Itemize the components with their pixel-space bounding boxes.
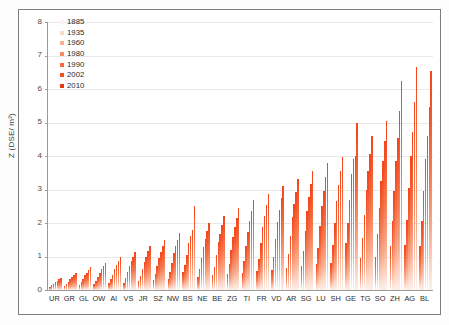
bar-cluster xyxy=(330,22,343,290)
chart-legend: 1885193519601980199020022010 xyxy=(60,17,124,91)
bar-cluster xyxy=(212,22,225,290)
x-axis-tick-label: GL xyxy=(77,294,92,304)
legend-swatch-icon xyxy=(60,63,64,67)
x-axis-tick-label: AR xyxy=(284,294,299,304)
bar xyxy=(208,223,209,290)
bar-cluster xyxy=(404,22,417,290)
legend-swatch-icon xyxy=(60,20,64,24)
y-axis-tick-label: 2 xyxy=(20,219,42,227)
bar xyxy=(164,240,165,290)
x-axis-tick-label: NW xyxy=(165,294,180,304)
x-axis-tick-label: SG xyxy=(299,294,314,304)
bar xyxy=(194,206,195,290)
x-axis-tick-label: NE xyxy=(195,294,210,304)
legend-swatch-icon xyxy=(60,41,64,45)
bar xyxy=(430,71,431,290)
bar xyxy=(90,267,91,290)
x-axis-tick-label: BS xyxy=(180,294,195,304)
bar-cluster xyxy=(360,22,373,290)
legend-swatch-icon xyxy=(60,84,64,88)
bar-cluster xyxy=(390,22,403,290)
x-axis-tick-label: TG xyxy=(358,294,373,304)
bar-cluster xyxy=(168,22,181,290)
x-axis-tick-label: BL xyxy=(417,294,432,304)
x-axis-tick-label: SH xyxy=(328,294,343,304)
x-axis-tick-label: TI xyxy=(240,294,255,304)
x-axis-tick-labels: URGRGLOWAIVSJRSZNWBSNEBEZGTIFRVDARSGLUSH… xyxy=(47,294,432,308)
bar xyxy=(105,263,106,290)
bar xyxy=(356,123,357,291)
bar xyxy=(297,179,298,290)
y-axis-tick-label: 7 xyxy=(20,51,42,59)
legend-item: 1885 xyxy=(60,17,124,28)
x-axis-tick-label: VS xyxy=(121,294,136,304)
bar-cluster xyxy=(123,22,136,290)
bar xyxy=(60,278,61,290)
bar xyxy=(238,208,239,290)
bar-cluster xyxy=(375,22,388,290)
y-axis-label: Z (DSE/ m²) xyxy=(7,91,16,181)
bar xyxy=(416,67,417,290)
legend-item: 2002 xyxy=(60,70,124,81)
legend-item: 2010 xyxy=(60,81,124,92)
bar-cluster xyxy=(286,22,299,290)
bar xyxy=(268,194,269,290)
bar xyxy=(179,233,180,290)
bar xyxy=(342,157,343,290)
legend-swatch-icon xyxy=(60,31,64,35)
bar-cluster xyxy=(271,22,284,290)
x-axis-tick-label: AG xyxy=(402,294,417,304)
y-axis-tick-label: 4 xyxy=(20,152,42,160)
bar xyxy=(120,257,121,290)
bar xyxy=(253,200,254,290)
y-axis-tick-mark xyxy=(45,290,48,291)
bar-cluster xyxy=(316,22,329,290)
bar xyxy=(223,216,224,290)
legend-item-label: 1885 xyxy=(67,17,84,27)
bar-cluster xyxy=(153,22,166,290)
bar xyxy=(75,273,76,290)
bar-cluster xyxy=(138,22,151,290)
bar-cluster xyxy=(419,22,432,290)
legend-item-label: 1980 xyxy=(67,49,84,59)
x-axis-tick-label: GE xyxy=(343,294,358,304)
legend-item-label: 2002 xyxy=(67,70,84,80)
x-axis-tick-label: FR xyxy=(254,294,269,304)
bar-cluster xyxy=(197,22,210,290)
bar-cluster xyxy=(227,22,240,290)
x-axis-tick-label: BE xyxy=(210,294,225,304)
bar-cluster xyxy=(182,22,195,290)
x-axis-tick-label: UR xyxy=(47,294,62,304)
bar xyxy=(149,246,150,290)
bar xyxy=(312,171,313,290)
legend-swatch-icon xyxy=(60,73,64,77)
bar-cluster xyxy=(256,22,269,290)
x-axis-tick-label: LU xyxy=(314,294,329,304)
y-axis-tick-label: 5 xyxy=(20,118,42,126)
bar-cluster xyxy=(242,22,255,290)
x-axis-tick-label: ZH xyxy=(388,294,403,304)
y-axis-tick-label: 8 xyxy=(20,18,42,26)
legend-item-label: 1935 xyxy=(67,28,84,38)
legend-item: 1960 xyxy=(60,38,124,49)
bar xyxy=(371,136,372,290)
bar-cluster xyxy=(301,22,314,290)
bar-cluster xyxy=(345,22,358,290)
y-axis-tick-label: 1 xyxy=(20,252,42,260)
chart-figure: Z (DSE/ m²) 012345678 URGRGLOWAIVSJRSZNW… xyxy=(0,0,449,325)
y-axis-tick-label: 6 xyxy=(20,85,42,93)
bar xyxy=(134,252,135,290)
x-axis-tick-label: ZG xyxy=(225,294,240,304)
y-axis-tick-label: 3 xyxy=(20,185,42,193)
bar xyxy=(282,186,283,290)
bar xyxy=(386,121,387,290)
y-axis-tick-label: 0 xyxy=(20,286,42,294)
legend-item-label: 2010 xyxy=(67,81,84,91)
x-axis-tick-label: OW xyxy=(91,294,106,304)
bar xyxy=(327,163,328,290)
x-axis-tick-label: AI xyxy=(106,294,121,304)
legend-item: 1935 xyxy=(60,28,124,39)
x-axis-tick-label: SO xyxy=(373,294,388,304)
legend-item: 1980 xyxy=(60,49,124,60)
x-axis-tick-label: SZ xyxy=(151,294,166,304)
